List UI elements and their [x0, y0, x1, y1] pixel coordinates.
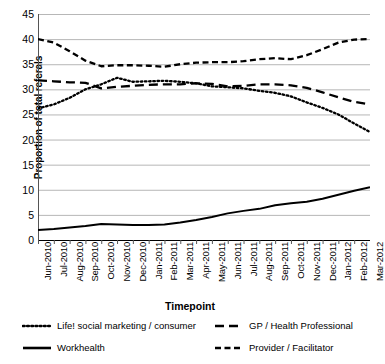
x-tick-label: Feb-2011 [168, 242, 179, 280]
y-tick-label: 0 [28, 234, 34, 246]
series-line-0 [38, 78, 370, 132]
legend-item-life-social-marketing: Life! social marketing / consumer [22, 320, 196, 331]
legend-swatch-dotted-icon [22, 321, 52, 331]
x-axis-title: Timepoint [0, 300, 380, 312]
legend-label: Life! social marketing / consumer [57, 320, 196, 331]
y-tick-label: 5 [28, 209, 34, 221]
x-tick-label: Sep-2010 [89, 242, 100, 282]
series-line-3 [38, 39, 370, 67]
x-axis-tick-labels: Jun-2010Jul-2010Aug-2010Sep-2010Oct-2010… [38, 242, 370, 298]
x-tick-label: Dec-2011 [327, 242, 338, 281]
series-line-2 [38, 187, 370, 230]
y-tick-label: 40 [22, 33, 34, 45]
x-tick-label: Jan-2012 [342, 242, 353, 280]
y-tick-label: 30 [22, 83, 34, 95]
x-tick-label: Jul-2011 [248, 242, 259, 276]
legend-label: Workhealth [57, 342, 105, 353]
y-tick-label: 15 [22, 159, 34, 171]
x-tick-label: Jul-2010 [58, 242, 69, 277]
legend-item-provider-facilitator: Provider / Facilitator [214, 342, 333, 353]
x-tick-label: Nov-2011 [311, 242, 322, 281]
x-tick-label: Jun-2011 [232, 242, 243, 279]
y-tick-label: 20 [22, 134, 34, 146]
chart-svg [38, 14, 370, 246]
x-tick-label: Nov-2010 [121, 242, 132, 282]
legend-label: GP / Health Professional [249, 320, 353, 331]
x-tick-label: Jun-2010 [42, 242, 53, 280]
legend-label: Provider / Facilitator [249, 342, 333, 353]
x-tick-label: Feb-2012 [358, 242, 369, 281]
y-tick-label: 45 [22, 8, 34, 20]
x-tick-label: Jan-2011 [153, 242, 164, 279]
legend-swatch-dashed-med-icon [214, 343, 244, 353]
y-tick-label: 10 [22, 184, 34, 196]
y-tick-label: 35 [22, 58, 34, 70]
x-tick-label: May-2011 [216, 242, 227, 282]
x-tick-label: Mar-2011 [184, 242, 195, 280]
y-axis-tick-labels: 051015202530354045 [12, 0, 34, 240]
x-tick-label: Mar-2012 [374, 242, 385, 281]
y-tick-label: 25 [22, 108, 34, 120]
legend-item-gp-health-professional: GP / Health Professional [214, 320, 353, 331]
x-tick-label: Apr-2011 [200, 242, 211, 279]
legend-swatch-dashed-long-icon [214, 321, 244, 331]
x-tick-label: Aug-2011 [263, 242, 274, 281]
x-tick-label: Dec-2010 [137, 242, 148, 282]
x-tick-label: Oct-2010 [105, 242, 116, 279]
x-tick-label: Aug-2010 [74, 242, 85, 282]
legend-item-workhealth: Workhealth [22, 342, 105, 353]
plot-area [38, 14, 370, 240]
x-tick-label: Oct-2011 [295, 242, 306, 279]
x-tick-label: Sep-2011 [279, 242, 290, 281]
chart-legend: Life! social marketing / consumer GP / H… [0, 318, 380, 364]
legend-swatch-solid-icon [22, 343, 52, 353]
